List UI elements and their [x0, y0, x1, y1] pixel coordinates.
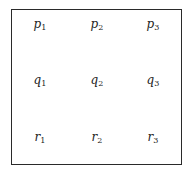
label-r2: r2 [92, 130, 103, 145]
label-p3: p3 [147, 17, 160, 32]
label-q1: q1 [34, 73, 47, 88]
label-q3: q3 [147, 73, 160, 88]
label-p2: p2 [91, 17, 104, 32]
label-p1: p1 [34, 17, 47, 32]
label-r3: r3 [148, 130, 159, 145]
label-r1: r1 [35, 130, 46, 145]
label-q2: q2 [91, 73, 104, 88]
